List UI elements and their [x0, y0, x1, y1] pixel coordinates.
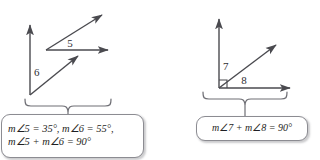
- callout-right-line-1: m∠7 + m∠8 = 90°: [197, 122, 307, 134]
- angle-label-5: 5: [67, 37, 73, 49]
- right-brace: [203, 92, 287, 104]
- angle-label-8: 8: [241, 74, 247, 86]
- callout-left-line-2: m∠5 + m∠6 = 90°: [2, 136, 143, 149]
- angle5-diagonal-ray: [46, 15, 102, 50]
- callout-left-line-1: m∠5 = 35°, m∠6 = 55°,: [2, 123, 143, 136]
- callout-box-left: m∠5 = 35°, m∠6 = 55°, m∠5 + m∠6 = 90°: [1, 114, 144, 158]
- right-diagram-group: 7 8: [203, 19, 290, 116]
- left-diagram-group: 5 6: [25, 15, 111, 114]
- geometry-figure: 5 6 7 8 m∠5 = 35°,: [0, 0, 320, 160]
- callout-box-right: m∠7 + m∠8 = 90°: [196, 116, 308, 141]
- angle-label-7: 7: [223, 60, 229, 72]
- angle-label-6: 6: [34, 66, 40, 78]
- left-brace: [25, 99, 111, 111]
